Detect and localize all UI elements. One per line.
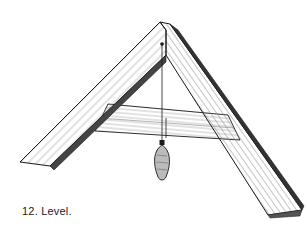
figure-caption: 12. Level. <box>22 205 72 217</box>
left-leg <box>20 22 166 170</box>
a-frame-level-illustration <box>0 0 307 232</box>
